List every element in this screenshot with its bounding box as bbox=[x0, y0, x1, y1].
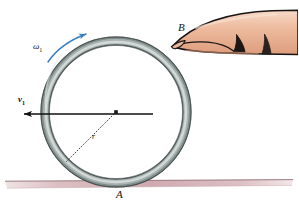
radius-line bbox=[66, 112, 117, 163]
angular-velocity-label: ω1 bbox=[33, 42, 42, 51]
ground-plane bbox=[5, 180, 293, 189]
radius-label: r bbox=[92, 133, 95, 141]
push-point-label: B bbox=[178, 22, 185, 33]
velocity-subscript: 1 bbox=[22, 100, 25, 106]
velocity-label: v1 bbox=[18, 95, 25, 104]
radius-dotted-segment bbox=[66, 112, 117, 163]
physics-diagram-figure: ω1 v1 r A B bbox=[0, 0, 298, 210]
omega-subscript: 1 bbox=[39, 47, 42, 53]
diagram-canvas bbox=[0, 0, 298, 210]
hand-illustration bbox=[172, 10, 299, 54]
contact-point-label: A bbox=[116, 189, 123, 200]
